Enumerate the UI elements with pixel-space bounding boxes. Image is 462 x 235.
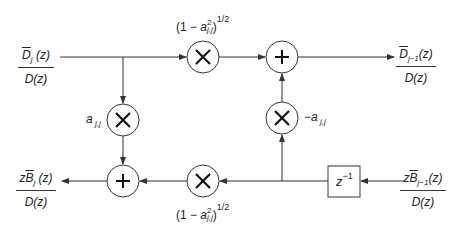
output-top-right: Dj−1(z) D(z) (396, 47, 436, 85)
gain-bottom-multiplier: (1 − a2j,j)1/2 (176, 206, 229, 223)
gain-top-multiplier: (1 − a2j,j)1/2 (176, 18, 229, 35)
gain-left-multiplier: a j,j (86, 112, 101, 128)
input-bottom-right: zBj−1(z) D(z) (400, 171, 446, 209)
gain-right-multiplier: −a j,j (304, 110, 326, 126)
output-bottom-left: zBj (z) D(z) (16, 171, 56, 209)
delay-label: z−1 (336, 174, 353, 188)
lattice-filter-diagram (0, 0, 462, 235)
input-top-left: Dj (z) D(z) (18, 48, 54, 86)
